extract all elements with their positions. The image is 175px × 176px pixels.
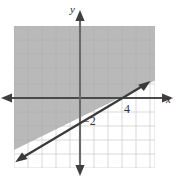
x-axis-label: x [165, 93, 171, 105]
x-tick-4-label: 4 [124, 102, 130, 116]
y-axis-label: y [69, 3, 75, 15]
coordinate-plane: y x −2 4 [0, 0, 175, 176]
y-intercept-label: −2 [83, 114, 96, 128]
graph-figure: y x −2 4 [0, 0, 175, 176]
